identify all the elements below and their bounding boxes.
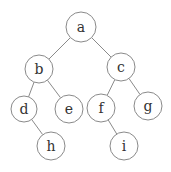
tree-diagram: abcdefghi bbox=[0, 0, 171, 172]
node-label: c bbox=[117, 59, 125, 75]
edge-a-c bbox=[92, 38, 111, 57]
edge-b-e bbox=[47, 80, 60, 98]
tree-node-d: d bbox=[11, 96, 37, 122]
nodes-layer: abcdefghi bbox=[11, 12, 162, 160]
node-label: e bbox=[65, 101, 73, 117]
edge-c-f bbox=[107, 80, 115, 96]
tree-node-e: e bbox=[55, 95, 83, 123]
node-label: b bbox=[35, 61, 44, 77]
tree-node-c: c bbox=[107, 53, 135, 81]
tree-node-b: b bbox=[25, 55, 53, 83]
edge-f-i bbox=[108, 120, 117, 134]
tree-node-h: h bbox=[37, 132, 65, 160]
tree-node-g: g bbox=[134, 92, 162, 120]
edge-a-b bbox=[49, 38, 70, 59]
node-label: i bbox=[122, 138, 127, 154]
edges-layer bbox=[29, 38, 140, 135]
tree-node-a: a bbox=[66, 12, 96, 42]
node-label: d bbox=[20, 101, 29, 117]
node-label: h bbox=[46, 138, 55, 154]
tree-node-f: f bbox=[87, 94, 115, 122]
node-label: g bbox=[144, 98, 153, 114]
node-label: a bbox=[77, 19, 85, 35]
edge-c-g bbox=[129, 79, 140, 95]
edge-b-d bbox=[29, 82, 35, 97]
edge-d-h bbox=[32, 120, 43, 135]
tree-node-i: i bbox=[110, 132, 138, 160]
